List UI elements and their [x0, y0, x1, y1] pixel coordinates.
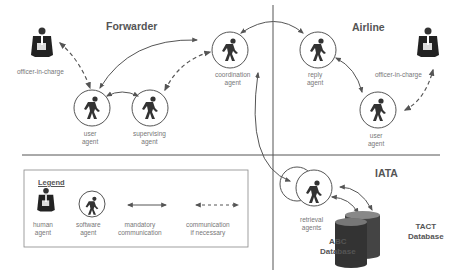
- legend-optional-label: communicationif necessary: [186, 221, 230, 237]
- legend-mandatory-label: mandatorycommunication: [118, 221, 162, 237]
- label-tact-database: TACTDatabase: [408, 222, 444, 242]
- human-agent-airline-officer: [417, 28, 439, 58]
- section-airline: Airline: [352, 21, 385, 33]
- label-coordination-agent: coordinationagent: [215, 71, 250, 87]
- label-forwarder-officer: officer-in-charge: [17, 68, 64, 76]
- label-airline-officer: officer-in-charge: [375, 71, 422, 79]
- legend-title: Legend: [38, 178, 65, 187]
- label-airline-user-agent: useragent: [368, 132, 384, 148]
- label-forwarder-user-agent: useragent: [82, 130, 98, 146]
- label-abc-database: ABCDatabase: [320, 237, 356, 257]
- label-supervising-agent: supervisingagent: [133, 130, 166, 146]
- human-agent-forwarder-officer: [31, 28, 53, 58]
- section-forwarder: Forwarder: [106, 20, 157, 32]
- section-iata: IATA: [375, 167, 398, 179]
- legend-software-label: softwareagent: [76, 221, 101, 237]
- label-reply-agent: replyagent: [307, 71, 323, 87]
- diagram-canvas: [0, 0, 465, 279]
- legend-human-icon: [37, 188, 55, 212]
- legend-human-label: humanagent: [33, 221, 53, 237]
- label-retrieval-agents: retrievalagents: [300, 216, 323, 232]
